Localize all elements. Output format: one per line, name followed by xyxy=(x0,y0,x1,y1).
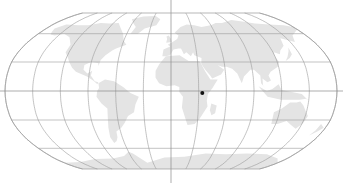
landmass-indonesia xyxy=(259,84,309,101)
landmass-new-zealand xyxy=(309,124,324,135)
landmass-layer xyxy=(51,16,324,169)
map-canvas xyxy=(0,0,343,183)
landmass-greenland xyxy=(131,16,161,34)
location-marker-icon[interactable] xyxy=(200,91,204,95)
world-map xyxy=(0,0,343,183)
landmass-australia xyxy=(271,102,308,129)
landmass-madagascar xyxy=(210,104,217,116)
landmass-south-america xyxy=(97,79,139,142)
landmass-japan xyxy=(286,48,292,62)
